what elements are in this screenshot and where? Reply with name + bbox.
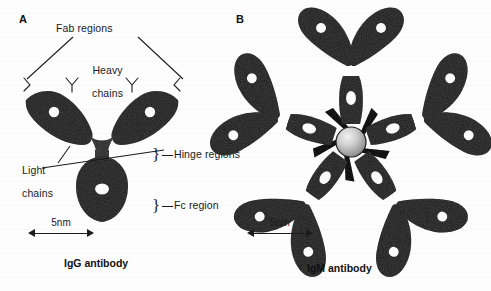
panel-letter-a: A	[19, 13, 27, 25]
fc-region-connector	[162, 206, 173, 207]
igm-monomer-1	[298, 8, 404, 124]
hinge-regions-brace: }	[152, 146, 160, 163]
scale-arrow-right	[87, 229, 94, 237]
hinge-regions-connector	[162, 155, 173, 156]
caption-igg: IgG antibody	[64, 257, 128, 269]
label-heavy-chains: Heavy chains	[80, 53, 123, 111]
scale-arrow-right	[306, 229, 313, 237]
label-fc-region: Fc region	[174, 200, 219, 212]
light-chains-leader-lines	[36, 134, 166, 172]
scale-bar-igm: 5nm	[247, 228, 313, 238]
light-chain-leader-short	[58, 146, 70, 163]
scale-bar-igg-label: 5nm	[51, 217, 70, 228]
scale-bar-igm-label: 5nm	[270, 217, 289, 228]
scale-bar-line	[34, 233, 88, 234]
fab-leader-right	[138, 37, 183, 79]
fc-region-brace: }	[152, 197, 160, 214]
scale-bar-igg: 5nm	[28, 228, 94, 238]
fab-leader-left	[27, 37, 73, 79]
antibody-structure-figure: A	[0, 0, 491, 291]
j-chain-sphere	[336, 127, 366, 157]
label-heavy-chains-line1: Heavy	[92, 64, 122, 76]
scale-bar-line	[253, 233, 307, 234]
caption-igm: IgM antibody	[307, 262, 372, 274]
label-heavy-chains-line2: chains	[92, 87, 123, 99]
label-light-chains-line2: chains	[22, 187, 53, 199]
